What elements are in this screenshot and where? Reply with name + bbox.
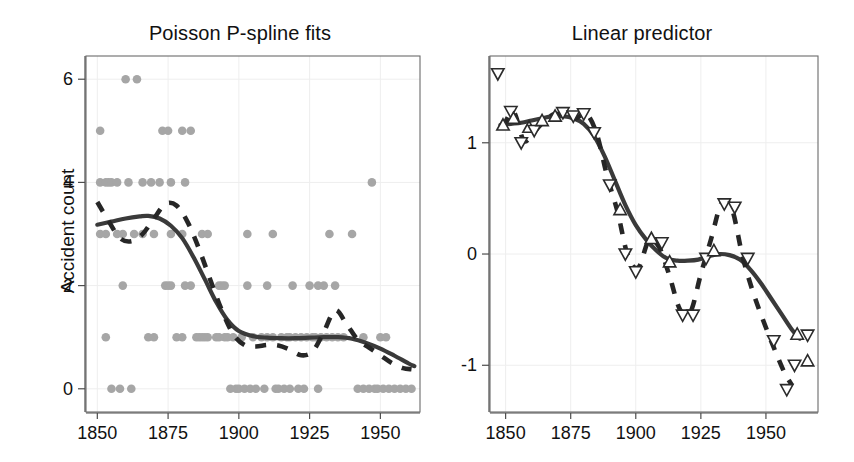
data-point <box>288 281 297 290</box>
data-point <box>285 384 294 393</box>
data-point <box>263 281 272 290</box>
data-point <box>155 178 164 187</box>
triangle-up-marker <box>801 355 813 366</box>
data-point <box>331 281 340 290</box>
data-point <box>113 178 122 187</box>
data-point <box>368 178 377 187</box>
data-point <box>319 281 328 290</box>
data-point <box>382 333 391 342</box>
y-tick-label: -1 <box>461 355 477 375</box>
data-point <box>167 281 176 290</box>
triangle-down-marker <box>781 385 793 396</box>
panel-poisson-p-spline-fits: Poisson P-spline fits Accident count 185… <box>0 0 450 462</box>
panel-linear-predictor: Linear predictor 18501875190019251950-10… <box>450 0 854 462</box>
tick-labels: 18501875190019251950-101 <box>461 133 786 443</box>
data-point <box>300 384 309 393</box>
y-tick-label: 0 <box>467 244 477 264</box>
data-point <box>348 230 357 239</box>
data-point <box>164 127 173 136</box>
x-tick-label: 1850 <box>77 423 117 443</box>
data-point <box>220 281 229 290</box>
x-tick-label: 1950 <box>746 423 786 443</box>
y-tick-label: 0 <box>63 379 73 399</box>
data-point <box>118 230 127 239</box>
figure-root: Poisson P-spline fits Accident count 185… <box>0 0 854 462</box>
data-point <box>102 333 111 342</box>
plot-area-left: 185018751900192519500246 <box>0 0 450 462</box>
data-point <box>181 178 190 187</box>
data-point <box>102 230 111 239</box>
triangle-down-marker <box>728 202 740 213</box>
plot-frame <box>490 56 818 412</box>
y-tick-label: 2 <box>63 276 73 296</box>
data-point <box>133 75 142 84</box>
data-point <box>407 384 416 393</box>
data-point <box>260 384 269 393</box>
triangle-down-marker <box>788 360 800 371</box>
plot-area-right: 18501875190019251950-101 <box>450 0 854 462</box>
data-point <box>124 178 133 187</box>
triangle-down-marker <box>604 180 616 191</box>
data-point <box>147 178 156 187</box>
solid-fit-curve <box>500 116 799 339</box>
data-point <box>269 230 278 239</box>
data-point <box>178 127 187 136</box>
data-point <box>243 230 252 239</box>
data-point <box>203 333 212 342</box>
x-tick-label: 1850 <box>486 423 526 443</box>
data-point <box>186 281 195 290</box>
y-tick-label: 1 <box>467 133 477 153</box>
data-point <box>150 333 159 342</box>
data-point <box>243 281 252 290</box>
data-point <box>167 178 176 187</box>
triangle-down-marker <box>687 310 699 321</box>
x-tick-label: 1925 <box>681 423 721 443</box>
triangle-down-marker <box>718 199 730 210</box>
y-tick-label: 6 <box>63 69 73 89</box>
data-point <box>116 384 125 393</box>
data-point <box>96 127 105 136</box>
triangle-down-marker <box>630 267 642 278</box>
data-point <box>107 384 116 393</box>
x-tick-label: 1925 <box>290 423 330 443</box>
data-point <box>150 230 159 239</box>
data-point <box>305 281 314 290</box>
data-point <box>186 127 195 136</box>
data-point <box>130 230 139 239</box>
data-point <box>138 178 147 187</box>
x-tick-label: 1950 <box>360 423 400 443</box>
x-tick-label: 1875 <box>148 423 188 443</box>
x-tick-label: 1900 <box>219 423 259 443</box>
x-tick-label: 1900 <box>616 423 656 443</box>
y-tick-label: 4 <box>63 172 73 192</box>
data-point <box>203 230 212 239</box>
x-tick-label: 1875 <box>551 423 591 443</box>
data-point <box>314 384 323 393</box>
data-point <box>252 384 261 393</box>
triangle-down-marker <box>492 69 504 80</box>
data-point <box>325 230 334 239</box>
dashed-fit-curve <box>503 111 792 385</box>
data-point <box>118 281 127 290</box>
data-point <box>121 75 130 84</box>
data-point <box>178 333 187 342</box>
gridlines <box>490 56 818 412</box>
data-point <box>127 384 136 393</box>
